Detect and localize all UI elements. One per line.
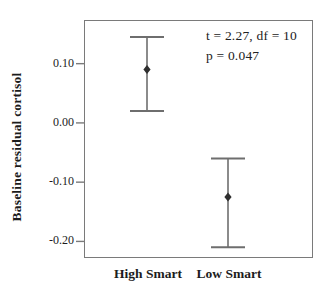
ytick-label: 0.10 — [53, 56, 74, 71]
ytick-label: -0.20 — [49, 234, 74, 249]
stats-annotation-line1: t = 2.27, df = 10 — [206, 26, 297, 46]
x-category-label: High Smart — [114, 266, 182, 282]
ytick-label: -0.10 — [49, 174, 74, 189]
x-category-label: Low Smart — [197, 266, 262, 282]
stats-annotation-line2: p = 0.047 — [206, 46, 297, 66]
errorbar-figure: Baseline residual cortisol 0.100.00-0.10… — [0, 0, 325, 296]
stats-annotation: t = 2.27, df = 10 p = 0.047 — [206, 26, 297, 66]
ytick-label: 0.00 — [53, 115, 74, 130]
y-axis-title: Baseline residual cortisol — [9, 73, 25, 222]
